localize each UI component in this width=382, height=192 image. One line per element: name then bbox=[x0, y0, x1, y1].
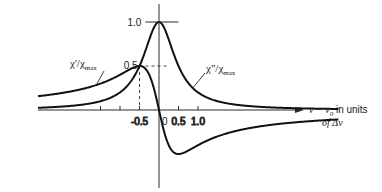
y-annotation-1: 1.0 bbox=[128, 17, 142, 28]
chart: -0.50.51.0 1.00.5χ"/χmaxχ'/χmax 0 ν − ν0… bbox=[0, 0, 382, 192]
absorption-leader bbox=[192, 73, 205, 89]
x-axis-label-line1: ν − ν0 in units bbox=[309, 104, 368, 118]
curves bbox=[38, 22, 338, 154]
labels: 1.00.5χ"/χmaxχ'/χmax bbox=[69, 17, 236, 89]
axes bbox=[38, 4, 304, 188]
x-ticks: -0.50.51.0 bbox=[101, 106, 206, 127]
x-tick-label: 0.5 bbox=[172, 116, 186, 127]
dispersion-label: χ'/χmax bbox=[69, 57, 97, 72]
y-annotation-05: 0.5 bbox=[124, 60, 138, 71]
x-axis-label-line2: of Δν bbox=[322, 117, 343, 128]
x-tick-label: 1.0 bbox=[191, 116, 205, 127]
absorption-label: χ"/χmax bbox=[205, 62, 236, 77]
x-tick-label: -0.5 bbox=[131, 116, 149, 127]
zero-tick-label: 0 bbox=[162, 116, 168, 127]
